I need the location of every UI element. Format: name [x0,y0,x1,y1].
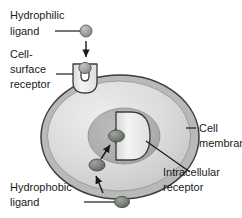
hydrophobic-ligand-line1: Hydrophobic [10,181,72,193]
label-cell-membrane: Cell membrane [199,122,242,149]
intracellular-receptor-line2: receptor [163,181,204,193]
cell-membrane-line1: Cell [199,122,218,134]
cell-surface-receptor-line3: receptor [10,78,51,90]
hydrophilic-ligand-line2: ligand [10,25,39,37]
cell-surface-receptor-line2: surface [10,63,46,75]
hydrophobic-ligand-line2: ligand [10,196,39,208]
bound-hydrophilic-ligand [79,62,91,73]
cell-membrane-line2: membrane [199,137,242,149]
label-hydrophobic-ligand: Hydrophobic ligand [10,181,72,208]
intracellular-receptor-line1: Intracellular [163,166,220,178]
free-hydrophilic-ligand [80,25,92,37]
label-hydrophilic-ligand: Hydrophilic ligand [10,9,65,37]
cell-signaling-diagram: Hydrophilic ligand Cell- surface recepto… [0,0,242,218]
label-cell-surface-receptor: Cell- surface receptor [10,48,51,90]
cell-surface-receptor-line1: Cell- [10,48,33,60]
external-hydrophobic-ligand [115,196,130,207]
hydrophilic-ligand-line1: Hydrophilic [10,9,65,21]
bound-hydrophobic-ligand [109,130,125,142]
cytoplasmic-hydrophobic-ligand [89,159,105,171]
diagram-canvas: Hydrophilic ligand Cell- surface recepto… [0,0,242,218]
